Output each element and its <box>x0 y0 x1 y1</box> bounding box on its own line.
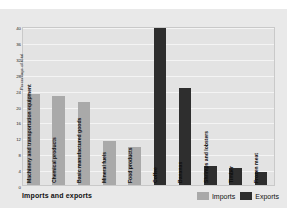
bar-group: Timber <box>229 28 242 185</box>
y-axis-tick-label: 4 <box>19 169 21 174</box>
bar-group: Food products <box>128 28 141 185</box>
legend-label: Exports <box>255 193 279 200</box>
bar-group: Coffee <box>154 28 167 185</box>
legend-entry: Imports <box>197 192 235 200</box>
bar-category-label: Frozen meat <box>253 153 259 183</box>
bar <box>154 28 167 185</box>
bar-group: Frozen meat <box>255 28 268 185</box>
legend-entry: Exports <box>240 192 279 200</box>
y-axis-tick-label: 12 <box>16 137 21 142</box>
plot-area: 0481216202428323640 Percentage of total … <box>22 27 275 186</box>
bar-group: Mineral fuels <box>103 28 116 185</box>
bar-category-label: Basic manufactured goods <box>76 118 82 183</box>
bar-category-label: Shrimps and lobsters <box>203 131 209 183</box>
legend-label: Imports <box>212 193 235 200</box>
chart-figure: 0481216202428323640 Percentage of total … <box>0 9 287 208</box>
bar-group: Basic manufactured goods <box>78 28 91 185</box>
y-axis-tick-label: 20 <box>16 105 21 110</box>
bar-group: Bananas <box>179 28 192 185</box>
chart-title: Imports and exports <box>22 192 92 199</box>
bar-category-label: Mineral fuels <box>101 152 107 183</box>
legend-swatch <box>240 192 252 200</box>
bar-category-label: Coffee <box>152 167 158 183</box>
bar-group: Shrimps and lobsters <box>204 28 217 185</box>
bar-series: Machinery and transportation equipmentCh… <box>23 28 274 185</box>
bar-category-label: Machinery and transportation equipment <box>26 84 32 183</box>
legend: ImportsExports <box>197 192 279 200</box>
bar-category-label: Timber <box>228 166 234 183</box>
bar-category-label: Chemical products <box>51 137 57 183</box>
bar-category-label: Food products <box>127 147 133 183</box>
bar-category-label: Bananas <box>177 162 183 183</box>
bar-group: Chemical products <box>52 28 65 185</box>
y-axis-tick-label: 8 <box>19 153 21 158</box>
legend-swatch <box>197 192 209 200</box>
chart-footer: Imports and exports ImportsExports <box>0 189 287 208</box>
bar-group: Machinery and transportation equipment <box>27 28 40 185</box>
y-axis-tick-label: 16 <box>16 121 21 126</box>
